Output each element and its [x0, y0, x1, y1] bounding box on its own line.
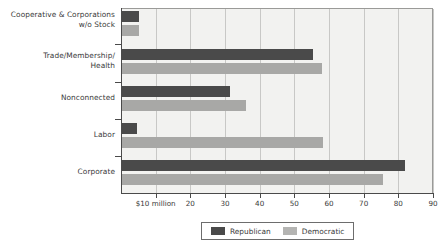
- category-label-trade: Trade/Membership/ Health: [43, 51, 115, 70]
- category-label-line-1: Labor: [94, 130, 115, 139]
- legend-label-republican: Republican: [230, 227, 271, 236]
- y-axis-tick: [115, 119, 121, 120]
- x-axis-tick: [364, 194, 365, 198]
- x-axis-tick: [225, 194, 226, 198]
- x-axis-tick-label: $10 million: [136, 199, 176, 208]
- x-axis-tick-label: 90: [428, 199, 437, 208]
- y-axis-tick: [115, 44, 121, 45]
- bar-democratic-4: [121, 174, 383, 185]
- x-axis-tick-label: 70: [359, 199, 368, 208]
- bar-democratic-3: [121, 137, 323, 148]
- legend-swatch-democratic: [283, 227, 297, 235]
- bar-democratic-2: [121, 100, 246, 111]
- x-axis-tick-label: 60: [324, 199, 333, 208]
- legend-label-democratic: Democratic: [302, 227, 345, 236]
- legend-item-republican: Republican: [211, 227, 271, 236]
- category-label-line-1: Trade/Membership/: [43, 51, 115, 60]
- bar-republican-3: [121, 123, 137, 134]
- bar-republican-4: [121, 160, 405, 171]
- y-axis-tick: [115, 82, 121, 83]
- bar-republican-2: [121, 86, 230, 97]
- category-label-line-1: Corporate: [78, 167, 115, 176]
- category-label-line-1: Cooperative & Corporations: [11, 10, 115, 19]
- x-axis-tick-label: 20: [186, 199, 195, 208]
- x-axis-line: [121, 193, 434, 194]
- category-axis-labels: Cooperative & Corporations w/o Stock Tra…: [0, 6, 118, 192]
- category-label-corporate: Corporate: [78, 167, 115, 177]
- x-axis-tick: [398, 194, 399, 198]
- legend-swatch-republican: [211, 227, 225, 235]
- category-label-nonconnected: Nonconnected: [61, 93, 115, 103]
- category-label-cooperative: Cooperative & Corporations w/o Stock: [11, 10, 115, 29]
- y-axis-line: [121, 8, 122, 194]
- y-axis-tick: [115, 156, 121, 157]
- bar-democratic-0: [121, 25, 139, 36]
- category-label-labor: Labor: [94, 130, 115, 140]
- legend-item-democratic: Democratic: [283, 227, 345, 236]
- x-axis-tick: [433, 194, 434, 198]
- x-axis-tick-label: 30: [220, 199, 229, 208]
- gridline: [433, 9, 434, 193]
- x-axis-tick: [190, 194, 191, 198]
- x-axis-tick-label: 50: [290, 199, 299, 208]
- bar-republican-0: [121, 11, 139, 22]
- chart-legend: Republican Democratic: [201, 222, 354, 240]
- x-axis-tick: [260, 194, 261, 198]
- category-label-line-2: w/o Stock: [11, 20, 115, 30]
- x-axis-tick: [156, 194, 157, 198]
- plot-area: [121, 8, 433, 193]
- bar-republican-1: [121, 49, 313, 60]
- x-axis-tick-label: 80: [394, 199, 403, 208]
- category-label-line-1: Nonconnected: [61, 93, 115, 102]
- x-axis-tick: [294, 194, 295, 198]
- bar-democratic-1: [121, 63, 322, 74]
- x-axis-tick: [329, 194, 330, 198]
- x-axis-tick-label: 40: [255, 199, 264, 208]
- bar-chart: Cooperative & Corporations w/o Stock Tra…: [0, 0, 442, 250]
- category-label-line-2: Health: [43, 61, 115, 71]
